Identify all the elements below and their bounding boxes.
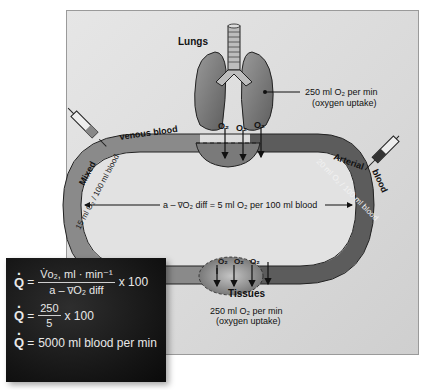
equation-3: Q = 5000 ml blood per min [14,335,158,350]
tissue-o2-label: O₂ [234,257,244,266]
multiplier: x 100 [119,275,148,289]
lung-o2-label: O₂ [236,123,247,133]
tissue-uptake-line2: (oxygen uptake) [216,316,281,326]
lung-uptake-line1: 250 ml O₂ per min [305,87,378,97]
equation-1: Q = V̇o₂, ml · min⁻¹ a – v̅O₂ diff x 100 [14,268,158,296]
tissue-o2-label: O₂ [250,257,260,266]
equals-sign: = [27,309,34,323]
numerator: V̇o₂, ml · min⁻¹ [38,268,115,283]
equals-sign: = [27,275,34,289]
cardiac-output-symbol: Q [14,308,24,323]
cardiac-output-symbol: Q [14,275,24,290]
numerator: 250 [38,302,60,316]
fraction: V̇o₂, ml · min⁻¹ a – v̅O₂ diff [38,268,115,296]
lung-o2-label: O₂ [218,121,229,131]
venous-syringe-icon [65,105,109,149]
arterial-syringe-icon [362,133,402,173]
av-diff-label: a – v̅O₂ diff = 5 ml O₂ per 100 ml blood [163,200,317,210]
lungs-label: Lungs [178,36,208,47]
denominator: a – v̅O₂ diff [49,283,103,296]
cardiac-output-symbol: Q [14,335,24,350]
tissue-o2-label: O₂ [218,257,228,266]
lungs-illustration [195,24,300,130]
lung-uptake-line2: (oxygen uptake) [312,98,377,108]
result: 5000 ml blood per min [38,336,157,350]
multiplier: x 100 [65,309,94,323]
tissue-uptake-line1: 250 ml O₂ per min [210,306,283,316]
cardiac-output-equations: Q = V̇o₂, ml · min⁻¹ a – v̅O₂ diff x 100… [6,258,166,382]
lung-o2-label: O₂ [254,120,265,130]
denominator: 5 [46,316,52,329]
equation-2: Q = 250 5 x 100 [14,302,158,329]
equals-sign: = [27,336,34,350]
fraction: 250 5 [38,302,60,329]
tissues-label: Tissues [228,288,265,299]
